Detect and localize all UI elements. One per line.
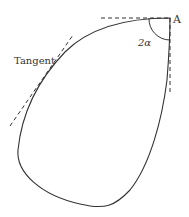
angle-arc <box>149 18 170 40</box>
diagram-canvas: A 2α Tangent <box>0 0 189 217</box>
side-tangent-line <box>10 35 73 126</box>
point-a-label: A <box>172 13 182 26</box>
angle-label: 2α <box>137 37 151 48</box>
tangent-label: Tangent <box>14 55 55 66</box>
